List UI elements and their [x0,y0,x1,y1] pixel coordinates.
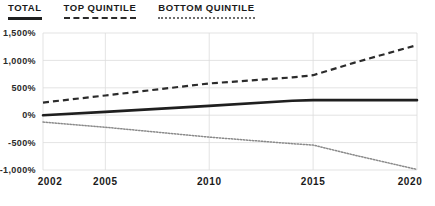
y-axis-tick-label: 0% [22,110,36,120]
x-axis-tick-labels: 20022005201020152020 [38,176,423,187]
series-line-top-quintile [43,45,417,103]
legend-swatch-dashed-icon [64,17,137,19]
series-line-total [43,100,417,115]
chart-container: TOTAL TOP QUINTILE BOTTOM QUINTILE 1,500… [0,0,435,206]
y-axis-tick-label: 1,500% [3,28,36,38]
y-axis-tick-label: 1,000% [3,56,36,66]
plot-area: 1,500%1,000%500%0%-500%-1,000% 200220052… [0,24,435,206]
x-axis-tick-label: 2010 [197,176,222,187]
x-axis-tick-label: 2015 [301,176,326,187]
legend-label-top-quintile: TOP QUINTILE [64,2,137,14]
legend-item-top-quintile[interactable]: TOP QUINTILE [64,2,137,19]
series-line-bottom-quintile [43,122,417,169]
legend-item-bottom-quintile[interactable]: BOTTOM QUINTILE [158,2,254,19]
x-axis-tick-label: 2020 [398,176,423,187]
y-axis-tick-label: 500% [11,83,36,93]
legend-item-total[interactable]: TOTAL [8,2,42,20]
series-lines [43,45,417,169]
legend-label-bottom-quintile: BOTTOM QUINTILE [158,2,254,14]
legend-swatch-solid-icon [8,17,42,20]
legend-label-total: TOTAL [8,2,42,14]
y-axis-tick-label: -1,000% [0,165,36,175]
vertical-gridlines [43,33,417,170]
horizontal-gridlines [43,33,417,170]
chart-legend: TOTAL TOP QUINTILE BOTTOM QUINTILE [8,2,255,20]
x-axis-tick-label: 2005 [93,176,118,187]
legend-swatch-dotted-icon [158,17,254,19]
y-axis-tick-labels: 1,500%1,000%500%0%-500%-1,000% [0,28,36,175]
y-axis-tick-label: -500% [8,138,36,148]
line-chart-svg: 1,500%1,000%500%0%-500%-1,000% 200220052… [0,24,435,206]
x-axis-tick-label: 2002 [38,176,63,187]
